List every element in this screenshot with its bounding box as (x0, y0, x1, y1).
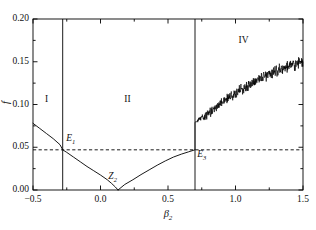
region-I-label: I (45, 94, 48, 104)
figure: −0.50.00.51.01.5 0.000.050.100.150.20 II… (0, 0, 316, 230)
y-tick-label: 0.05 (12, 141, 29, 151)
point-E1-subscript: 1 (72, 138, 75, 145)
chart-canvas (0, 0, 316, 230)
data-curves (33, 57, 303, 190)
x-axis-title: β2 (164, 208, 173, 222)
x-axis-title-subscript: 2 (169, 214, 173, 222)
y-tick-label: 0.15 (12, 56, 29, 66)
point-E1-label: E1 (66, 133, 75, 145)
point-E3-subscript: 3 (203, 154, 206, 161)
axis-ticks (33, 19, 303, 190)
x-tick-label: 0.5 (162, 194, 174, 204)
axes-frame (33, 19, 303, 190)
x-tick-label: 1.5 (297, 194, 309, 204)
region-II-label: II (124, 94, 130, 104)
x-tick-label: −0.5 (24, 194, 41, 204)
point-E3-label: E3 (197, 149, 206, 161)
y-tick-label: 0.00 (12, 184, 29, 194)
y-tick-label: 0.20 (12, 13, 29, 23)
region-IV-label: IV (239, 35, 249, 45)
y-axis-title: f (0, 101, 11, 104)
region-boundaries (63, 19, 195, 190)
point-Z2-subscript: 2 (114, 176, 117, 183)
x-tick-label: 0.0 (95, 194, 107, 204)
point-Z2-label: Z2 (108, 171, 117, 183)
x-tick-label: 1.0 (230, 194, 242, 204)
y-tick-label: 0.10 (12, 99, 29, 109)
